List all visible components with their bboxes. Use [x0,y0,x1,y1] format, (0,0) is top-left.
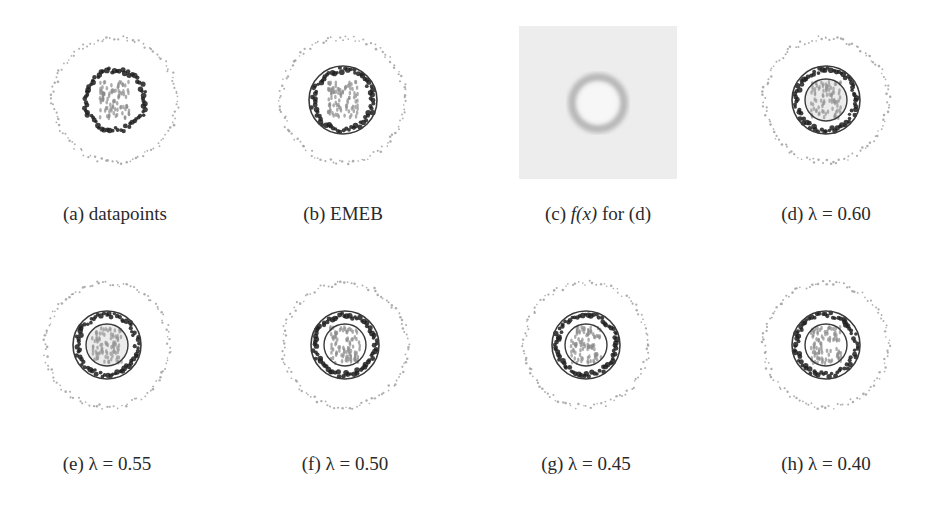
caption-a: (a) datapoints [63,203,167,225]
caption-b: (b) EMEB [303,203,383,225]
caption-f: (f) λ = 0.50 [302,453,388,475]
plot-f [245,255,445,435]
caption-label: (h) [781,453,808,474]
caption-label: (a) [63,203,89,224]
panel-a [15,10,215,190]
panel-f [245,255,445,435]
plot-d [726,10,926,190]
plot-a [15,10,215,190]
caption-label: (e) [63,453,89,474]
plot-h [726,255,926,435]
panel-h [726,255,926,435]
caption-h: (h) λ = 0.40 [781,453,871,475]
caption-text: λ = 0.45 [568,453,631,474]
plot-g [486,255,686,435]
panel-c [498,13,698,193]
caption-label: (f) [302,453,326,474]
plot-e [7,255,207,435]
caption-text: λ = 0.40 [808,453,871,474]
panel-d [726,10,926,190]
caption-d: (d) λ = 0.60 [781,203,871,225]
caption-label: (d) [781,203,808,224]
caption-text: λ = 0.50 [326,453,389,474]
panel-b [243,10,443,190]
caption-text: λ = 0.60 [808,203,871,224]
caption-text: for (d) [602,203,651,224]
plot-b [243,10,443,190]
caption-e: (e) λ = 0.55 [63,453,152,475]
plot-c [498,13,698,193]
caption-math: f(x) [571,203,602,224]
caption-c: (c) f(x) for (d) [545,203,651,225]
caption-label: (c) [545,203,571,224]
panel-e [7,255,207,435]
caption-text: EMEB [330,203,383,224]
caption-label: (g) [541,453,568,474]
caption-g: (g) λ = 0.45 [541,453,631,475]
caption-text: λ = 0.55 [89,453,152,474]
caption-label: (b) [303,203,330,224]
caption-text: datapoints [89,203,167,224]
panel-g [486,255,686,435]
